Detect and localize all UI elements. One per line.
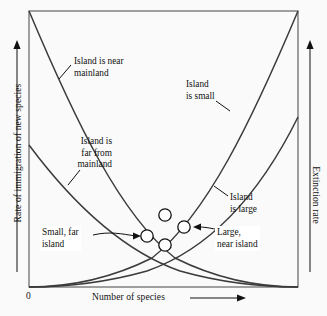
y-axis-left-arrowhead bbox=[13, 40, 20, 49]
label-island-near-mainland: Island is near mainland bbox=[74, 56, 124, 79]
equilibrium-point-small-near bbox=[159, 209, 171, 221]
label-island-far-from-mainland: Island is far from mainland bbox=[34, 136, 112, 171]
x-axis-title: Number of species bbox=[92, 292, 165, 302]
y-axis-right-title: Extinction rate bbox=[311, 150, 321, 240]
label-large-near-island: Large, near island bbox=[215, 226, 260, 251]
label-small-far-island: Small, far island bbox=[40, 226, 81, 251]
island-biogeography-figure: Rate of immigration of new species Extin… bbox=[0, 0, 327, 316]
label-island-is-large: Island is large bbox=[230, 192, 257, 215]
equilibrium-point-large-near-island bbox=[178, 221, 190, 233]
x-axis-arrowhead bbox=[237, 294, 246, 301]
label-island-is-small: Island is small bbox=[186, 79, 215, 102]
y-axis-right-arrowhead bbox=[306, 40, 313, 49]
y-axis-left-title: Rate of immigration of new species bbox=[13, 73, 23, 233]
origin-tick-label: 0 bbox=[26, 291, 31, 301]
equilibrium-point-small-far-island bbox=[141, 230, 153, 242]
equilibrium-point-large-far bbox=[159, 239, 171, 251]
